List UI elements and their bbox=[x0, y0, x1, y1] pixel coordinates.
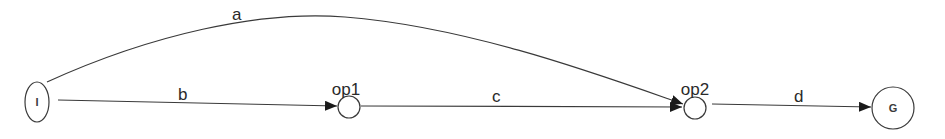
edge-d-label: d bbox=[794, 87, 803, 106]
node-initial: I bbox=[25, 82, 49, 122]
edge-a-line bbox=[47, 16, 683, 104]
node-goal-label: G bbox=[889, 102, 898, 114]
node-goal: G bbox=[872, 87, 914, 129]
edge-d: d bbox=[712, 87, 871, 107]
edge-c: c bbox=[361, 87, 682, 107]
node-op1: op1 bbox=[332, 80, 360, 118]
edge-b: b bbox=[58, 85, 337, 106]
edge-b-line bbox=[58, 100, 337, 106]
edge-c-label: c bbox=[492, 87, 501, 106]
edge-a: a bbox=[47, 5, 683, 104]
state-graph: a b c d I op1 op2 G bbox=[0, 0, 945, 139]
node-op1-shape bbox=[338, 96, 360, 118]
edge-a-label: a bbox=[232, 5, 242, 24]
edge-c-line bbox=[361, 106, 682, 107]
node-op1-caption: op1 bbox=[332, 80, 360, 99]
node-initial-label: I bbox=[35, 96, 38, 108]
node-op2-shape bbox=[684, 97, 706, 119]
edge-d-line bbox=[712, 104, 871, 107]
edge-b-label: b bbox=[178, 85, 187, 104]
node-op2: op2 bbox=[681, 80, 709, 119]
node-op2-caption: op2 bbox=[681, 80, 709, 99]
